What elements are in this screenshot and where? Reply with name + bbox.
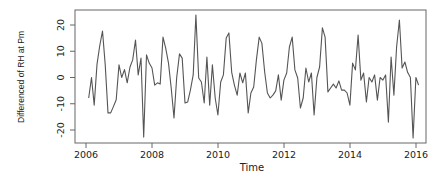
plot-box (75, 10, 426, 143)
x-tick-label: 2010 (206, 149, 230, 160)
x-tick-label: 2006 (74, 149, 98, 160)
y-tick-label: -10 (55, 96, 66, 112)
x-axis: 200620082010201220142016 (74, 143, 428, 160)
y-tick-label: 10 (55, 45, 66, 57)
data-line (89, 15, 419, 138)
x-tick-label: 2008 (140, 149, 164, 160)
y-axis: -20-1001020 (55, 19, 75, 138)
y-axis-label: Differenced of RH at Pm (16, 31, 26, 123)
time-series-chart: -20-1001020 200620082010201220142016 Tim… (0, 0, 443, 177)
x-axis-label: Time (239, 162, 264, 173)
y-tick-label: 20 (55, 19, 66, 31)
x-tick-label: 2016 (404, 149, 428, 160)
x-tick-label: 2012 (272, 149, 296, 160)
x-tick-label: 2014 (338, 149, 362, 160)
y-tick-label: 0 (55, 74, 66, 80)
y-tick-label: -20 (55, 122, 66, 138)
